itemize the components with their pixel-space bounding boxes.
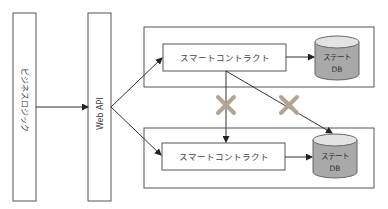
- business-logic-label: ビジネスロジック: [20, 68, 29, 132]
- state-db-2-label-line1: ステート: [321, 152, 349, 161]
- state-db-1-label-line2: DB: [332, 65, 343, 74]
- state-db-1-icon: ステート DB: [315, 36, 359, 80]
- architecture-diagram: ビジネスロジック Web API スマートコントラクト スマートコントラクト ス…: [0, 0, 388, 209]
- smart-contract-1-label: スマートコントラクト: [180, 53, 270, 63]
- web-api-block: Web API: [88, 13, 111, 201]
- smart-contract-2-label: スマートコントラクト: [179, 152, 269, 162]
- web-api-label: Web API: [96, 97, 105, 130]
- state-db-1-label-line1: ステート: [323, 53, 351, 62]
- state-db-2-label-line2: DB: [330, 164, 341, 173]
- smart-contract-2: スマートコントラクト: [162, 143, 285, 170]
- state-db-2-icon: ステート DB: [313, 134, 357, 178]
- business-logic-block: ビジネスロジック: [13, 13, 36, 201]
- smart-contract-1: スマートコントラクト: [163, 44, 286, 71]
